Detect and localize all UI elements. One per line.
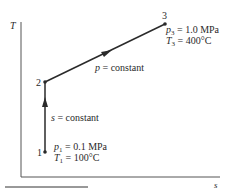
temperature-value: = 400°C: [175, 35, 211, 46]
process-text: = constant: [100, 62, 144, 73]
temperature-value: = 100°C: [63, 152, 99, 163]
state-point-2: [43, 80, 47, 84]
arrow-right-icon: [101, 50, 112, 57]
point-3-label: 3: [162, 10, 167, 21]
pressure-value: = 0.1 MPa: [63, 141, 108, 152]
point-1-label: 1: [37, 147, 42, 158]
x-axis-label: s: [214, 180, 218, 191]
point-2-label: 2: [36, 77, 41, 88]
process-text: = constant: [55, 112, 99, 123]
process-1-2-label: s = constant: [51, 112, 99, 123]
point-3-temperature: T3 = 400°C: [166, 35, 211, 50]
arrow-up-icon: [42, 97, 48, 107]
y-axis-label: T: [10, 20, 16, 31]
process-2-3-label: p = constant: [95, 62, 144, 73]
state-point-1: [43, 150, 47, 154]
point-1-temperature: T1 = 100°C: [54, 152, 99, 167]
pressure-value: = 1.0 MPa: [175, 24, 220, 35]
